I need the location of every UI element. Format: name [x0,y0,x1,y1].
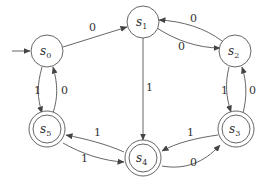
edge-label-s1-s2: 0 [178,40,185,53]
state-s5-accepting: s5 [29,111,65,147]
edge-label-s4-s3: 0 [190,156,197,169]
edge-s1-s2 [157,28,220,48]
edge-label-s1-s4: 1 [146,81,153,94]
edge-label-s3-s2: 0 [249,84,256,97]
edge-label-s2-s3: 1 [221,84,228,97]
edge-s3-s2 [242,67,246,113]
state-s0: s0 [31,35,63,67]
state-s1: s1 [127,6,159,38]
edge-label-s5-s0: 0 [61,84,68,97]
state-s4-accepting: s4 [125,140,161,176]
state-s2: s2 [219,35,251,67]
edge-label-s0-s5: 1 [34,84,41,97]
state-diagram: 0 1 0 0 0 1 1 0 1 0 1 1 s0 s1 s2 [0,0,270,186]
state-s3-accepting: s3 [218,111,254,147]
edge-label-s3-s4: 1 [187,126,194,139]
edge-s5-s0 [53,67,57,113]
edge-label-s4-s5: 1 [94,126,101,139]
edge-s5-s4 [63,143,124,162]
edge-label-s5-s4: 1 [81,152,88,165]
edge-label-s2-s1: 0 [190,12,197,25]
edge-label-s0-s1: 0 [89,21,96,34]
